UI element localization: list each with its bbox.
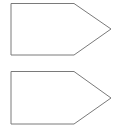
- pentagon-arrow-shape-1[interactable]: [11, 4, 111, 56]
- diagram-canvas: [0, 0, 122, 127]
- pentagon-arrow-shape-2[interactable]: [11, 72, 111, 125]
